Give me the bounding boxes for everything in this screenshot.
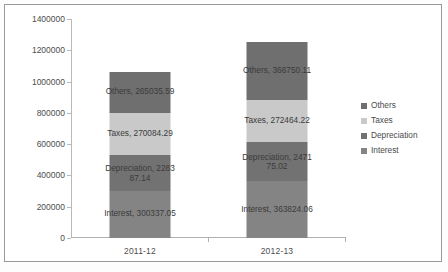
legend-swatch-icon [361,148,367,154]
chart-frame: 1400000 1200000 1000000 800000 600000 40… [4,4,442,262]
y-axis-label: 400000 [37,171,65,180]
data-label-others: Others, 265035.59 [106,88,175,98]
y-axis-tick [67,19,71,20]
bar-segment-interest[interactable]: Interest, 300337.05 [110,191,171,238]
y-axis-tick [67,238,71,239]
bar-2011-12[interactable]: Others, 265035.59 Taxes, 270084.29 Depre… [110,72,171,238]
data-label-depreciation-line2: 87.14 [130,172,151,182]
y-axis-tick [67,175,71,176]
legend-swatch-icon [361,103,367,109]
bar-segment-taxes[interactable]: Taxes, 270084.29 [110,113,171,155]
y-axis-label: 0 [60,234,65,243]
data-label-depreciation: Depreciation, 228387.14 [92,164,188,183]
x-axis-tick [345,238,346,242]
bar-segment-depreciation[interactable]: Depreciation, 228387.14 [110,155,171,191]
data-label-taxes: Taxes, 270084.29 [107,129,173,139]
bar-segment-depreciation[interactable]: Depreciation, 247175.02 [247,142,308,181]
chart-legend: Others Taxes Depreciation Interest [361,98,439,158]
y-axis-tick [67,113,71,114]
legend-swatch-icon [361,133,367,139]
bar-segment-interest[interactable]: Interest, 363824.06 [247,181,308,238]
y-axis-label: 600000 [37,140,65,149]
plot-area: 1400000 1200000 1000000 800000 600000 40… [71,19,346,238]
data-label-taxes: Taxes, 272464.22 [244,116,310,126]
y-axis-label: 1200000 [32,46,65,55]
bar-segment-taxes[interactable]: Taxes, 272464.22 [247,100,308,143]
legend-item-depreciation[interactable]: Depreciation [361,128,439,143]
legend-label: Others [371,101,396,110]
y-axis-label: 1000000 [32,77,65,86]
legend-item-others[interactable]: Others [361,98,439,113]
x-axis-tick [208,238,209,242]
y-axis-label: 800000 [37,109,65,118]
legend-item-taxes[interactable]: Taxes [361,113,439,128]
y-axis-tick [67,50,71,51]
data-label-depreciation: Depreciation, 247175.02 [229,152,325,171]
bar-2012-13[interactable]: Others, 366750.11 Taxes, 272464.22 Depre… [247,42,308,238]
bar-segment-others[interactable]: Others, 265035.59 [110,72,171,113]
data-label-depreciation-line1: Depreciation, 2283 [105,163,175,173]
data-label-depreciation-line2: 75.02 [267,161,288,171]
y-axis-line [71,19,72,238]
data-label-interest: Interest, 300337.05 [104,210,176,220]
legend-item-interest[interactable]: Interest [361,143,439,158]
bar-segment-others[interactable]: Others, 366750.11 [247,42,308,99]
legend-label: Interest [371,146,399,155]
data-label-others: Others, 366750.11 [243,66,311,76]
data-label-interest: Interest, 363824.06 [241,205,313,215]
legend-label: Taxes [371,116,393,125]
y-axis-label: 200000 [37,202,65,211]
y-axis-tick [67,207,71,208]
scanned-page-background: 1400000 1200000 1000000 800000 600000 40… [0,0,448,272]
x-axis-label-2012-13: 2012-13 [261,247,294,256]
legend-swatch-icon [361,118,367,124]
y-axis-tick [67,144,71,145]
y-axis-label: 1400000 [32,15,65,24]
legend-label: Depreciation [371,131,418,140]
y-axis-tick [67,82,71,83]
data-label-depreciation-line1: Depreciation, 2471 [242,151,312,161]
x-axis-label-2011-12: 2011-12 [124,247,156,256]
